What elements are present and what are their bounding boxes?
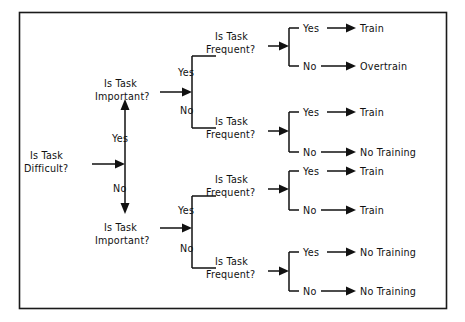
branch-label-frequent-3-yes: Yes <box>302 166 319 177</box>
frequent-4-question-line2: Frequent? <box>206 269 255 280</box>
branch-label-root-no: No <box>113 183 126 194</box>
branch-label-important-bottom-yes: Yes <box>177 205 194 216</box>
branch-label-frequent-1-no: No <box>303 61 316 72</box>
frequent-1-question-line1: Is Task <box>215 31 248 42</box>
branch-label-frequent-2-no: No <box>303 147 316 158</box>
root-question-line1: Is Task <box>30 150 63 161</box>
decision-tree-canvas: Is Task Difficult? Yes No Is Task Import… <box>0 0 465 322</box>
frequent-2-question-line2: Frequent? <box>206 129 255 140</box>
outcome-6-label: Train <box>359 205 384 216</box>
branch-label-important-top-no: No <box>180 105 193 116</box>
branch-label-frequent-1-yes: Yes <box>302 23 319 34</box>
root-question-line2: Difficult? <box>24 163 68 174</box>
frequent-1-question-line2: Frequent? <box>206 44 255 55</box>
frequent-3-question-line1: Is Task <box>215 174 248 185</box>
important-bottom-question-line1: Is Task <box>104 222 137 233</box>
frequent-4-question-line1: Is Task <box>215 256 248 267</box>
outcome-1-label: Train <box>359 23 384 34</box>
branch-label-frequent-4-no: No <box>303 286 316 297</box>
branch-label-important-top-yes: Yes <box>177 67 194 78</box>
outcome-7-label: No Training <box>360 247 416 258</box>
frequent-2-question-line1: Is Task <box>215 116 248 127</box>
branch-label-frequent-4-yes: Yes <box>302 247 319 258</box>
branch-label-frequent-2-yes: Yes <box>302 107 319 118</box>
frequent-3-question-line2: Frequent? <box>206 187 255 198</box>
outcome-8-label: No Training <box>360 286 416 297</box>
outcome-5-label: Train <box>359 166 384 177</box>
outcome-2-label: Overtrain <box>360 61 407 72</box>
branch-label-important-bottom-no: No <box>180 243 193 254</box>
decision-tree-figure: Is Task Difficult? Yes No Is Task Import… <box>0 0 465 322</box>
outcome-3-label: Train <box>359 107 384 118</box>
important-top-question-line2: Important? <box>95 91 150 102</box>
important-top-question-line1: Is Task <box>104 78 137 89</box>
branch-label-frequent-3-no: No <box>303 205 316 216</box>
important-bottom-question-line2: Important? <box>95 235 150 246</box>
outcome-4-label: No Training <box>360 147 416 158</box>
branch-label-root-yes: Yes <box>111 133 128 144</box>
